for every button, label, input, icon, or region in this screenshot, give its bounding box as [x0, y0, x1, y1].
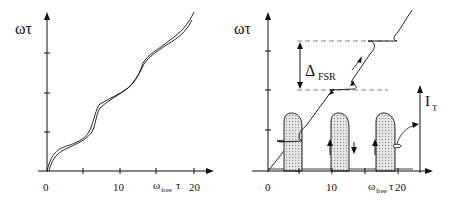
pointer-arrow-icon: [412, 122, 419, 128]
current-arrow-icon: [417, 85, 423, 93]
left-x-label-sub: free: [161, 186, 172, 194]
figure: ωτ 0 10 20 ω free τ: [0, 0, 458, 201]
right-x-label-sub: free: [376, 187, 387, 195]
right-x-arrow-icon: [425, 168, 433, 174]
delta-up-arrow-icon: [297, 42, 303, 49]
left-x-arrow-icon: [206, 168, 214, 174]
right-x-label-omega: ω: [368, 180, 375, 192]
left-curve-b: [49, 20, 192, 171]
left-ticks: [44, 53, 194, 174]
delta-label: Δ: [305, 62, 315, 79]
right-y-arrow-icon: [265, 12, 271, 20]
current-label: I: [425, 93, 430, 109]
left-x-label-omega: ω: [153, 179, 160, 191]
left-x-tick-0: 0: [43, 181, 49, 193]
response-curve-2: [330, 10, 412, 93]
left-x-label-tau: τ: [176, 179, 181, 191]
right-panel: Δ FSR ωτ I T 0 10 20 ω free τ: [234, 10, 438, 195]
left-y-arrow-icon: [44, 12, 50, 20]
intensity-band-3: [376, 113, 395, 171]
left-x-tick-10: 10: [113, 181, 125, 193]
delta-label-sub: FSR: [318, 71, 336, 82]
current-label-sub: T: [432, 103, 438, 113]
band-down-arrow-icon: [351, 147, 357, 154]
curve-arrow-up-icon: [357, 56, 362, 63]
left-x-tick-20: 20: [189, 181, 201, 193]
curve-arrow-icon: [350, 80, 355, 86]
right-x-label-tau: τ: [389, 180, 394, 192]
right-y-label: ωτ: [234, 20, 252, 37]
left-y-label: ωτ: [15, 20, 33, 37]
response-curve-1: [299, 93, 330, 141]
right-x-tick-10: 10: [326, 181, 338, 193]
left-panel: ωτ 0 10 20 ω free τ: [15, 12, 214, 194]
band-ellipse: [393, 144, 401, 148]
delta-down-arrow-icon: [297, 82, 303, 89]
right-x-tick-20: 20: [395, 181, 407, 193]
intensity-band-2: [331, 113, 349, 171]
right-x-tick-0: 0: [265, 181, 271, 193]
